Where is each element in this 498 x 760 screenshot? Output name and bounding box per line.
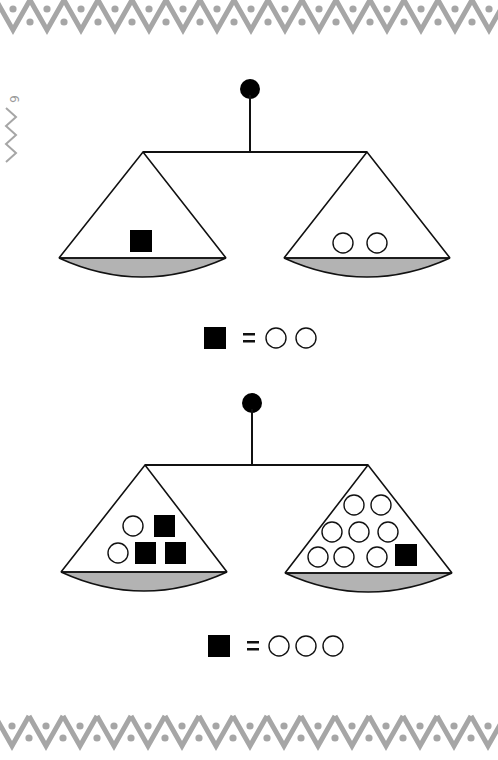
weight-square <box>165 542 186 564</box>
right-pan <box>284 152 450 277</box>
equation-2 <box>208 635 343 657</box>
page-number: 6 <box>7 90 21 108</box>
equation-square-icon <box>204 327 226 349</box>
weight-circle <box>378 522 398 542</box>
weight-square <box>135 542 156 564</box>
weight-circle <box>344 495 364 515</box>
weight-square <box>154 515 175 537</box>
weight-circle <box>108 543 128 563</box>
left-pan <box>59 152 226 277</box>
left-pan <box>61 465 227 591</box>
balance-scale-1 <box>59 79 450 277</box>
weight-circle <box>349 522 369 542</box>
equation-circle-icon <box>296 328 316 348</box>
weight-circle <box>333 233 353 253</box>
side-zigzag-ornament <box>6 108 16 162</box>
top-zigzag-border <box>0 0 498 36</box>
equation-circle-icon <box>296 636 316 656</box>
equals-sign <box>243 333 255 336</box>
weight-circle <box>322 522 342 542</box>
equation-circle-icon <box>266 328 286 348</box>
balance-scale-2 <box>61 393 452 592</box>
weight-circle <box>123 516 143 536</box>
equation-circle-icon <box>323 636 343 656</box>
right-pan <box>285 465 452 592</box>
equation-1 <box>204 327 316 349</box>
equation-square-icon <box>208 635 230 657</box>
equals-sign <box>247 641 259 644</box>
weight-circle <box>334 547 354 567</box>
weight-square <box>395 544 417 566</box>
weight-square <box>130 230 152 252</box>
bottom-zigzag-border <box>0 712 498 752</box>
equation-circle-icon <box>269 636 289 656</box>
weight-circle <box>308 547 328 567</box>
worksheet-canvas <box>0 0 498 760</box>
weight-circle <box>371 495 391 515</box>
weight-circle <box>367 547 387 567</box>
weight-circle <box>367 233 387 253</box>
